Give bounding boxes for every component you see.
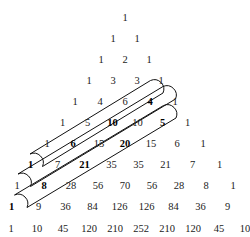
- cell: 35: [100, 159, 123, 171]
- cell: 9: [27, 201, 50, 213]
- cell: 1: [192, 138, 214, 150]
- table-row: 1 6 15 20 15 6 1: [0, 133, 250, 151]
- cell: 120: [78, 223, 100, 235]
- cell: 45: [208, 223, 230, 235]
- cell: 9: [216, 201, 239, 213]
- cell-highlighted: 8: [33, 180, 56, 192]
- cell: 56: [141, 180, 164, 192]
- cell: 7: [181, 159, 204, 171]
- table-row: 1 7 21 35 35 21 7 1: [0, 154, 250, 172]
- table-row: 1 2 1: [0, 49, 250, 67]
- cell-highlighted: 1: [19, 159, 42, 171]
- cell: 126: [135, 201, 158, 213]
- cell: 4: [90, 96, 111, 108]
- cell: 1: [103, 33, 123, 45]
- cell: 1: [115, 12, 135, 24]
- cell: 10: [127, 117, 148, 129]
- cell: 45: [52, 223, 74, 235]
- cell: 56: [87, 180, 110, 192]
- table-row: 1 4 6 4 1: [0, 91, 250, 109]
- table-row: 1 8 28 56 70 56 28 8 1: [0, 175, 250, 193]
- cell: 6: [115, 96, 136, 108]
- cell: 7: [46, 159, 69, 171]
- cell: 1: [52, 117, 73, 129]
- cell: 28: [60, 180, 83, 192]
- cell: 1: [91, 54, 111, 66]
- cell: 70: [114, 180, 137, 192]
- table-row: 1 9 36 84 126 126 84 36 9 1: [0, 196, 250, 214]
- cell: 210: [104, 223, 126, 235]
- cell: 15: [88, 138, 110, 150]
- cell-highlighted: 4: [140, 96, 161, 108]
- cell: 1: [6, 180, 29, 192]
- cell-highlighted: 1: [0, 201, 23, 213]
- cell: 1: [243, 201, 250, 213]
- cell: 3: [103, 75, 123, 87]
- cell: 2: [115, 54, 135, 66]
- cell: 21: [154, 159, 177, 171]
- cell-highlighted: 10: [102, 117, 123, 129]
- cell: 84: [162, 201, 185, 213]
- cell: 84: [81, 201, 104, 213]
- cell: 15: [140, 138, 162, 150]
- cell-highlighted: 20: [114, 138, 136, 150]
- cell: 36: [189, 201, 212, 213]
- cell: 10: [26, 223, 48, 235]
- cell: 1: [151, 75, 171, 87]
- table-row: 1: [0, 7, 250, 25]
- cell: 1: [0, 223, 22, 235]
- cell: 1: [222, 180, 245, 192]
- cell-highlighted: 6: [62, 138, 84, 150]
- cell: 1: [79, 75, 99, 87]
- cell: 126: [108, 201, 131, 213]
- table-row: 1 10 45 120 210 252 210 120 45 10 1: [0, 218, 250, 236]
- cell: 1: [36, 138, 58, 150]
- cell-highlighted: 5: [152, 117, 173, 129]
- cell: 1: [65, 96, 86, 108]
- cell: 36: [54, 201, 77, 213]
- cell: 28: [168, 180, 191, 192]
- cell: 5: [77, 117, 98, 129]
- cell: 210: [156, 223, 178, 235]
- cell: 35: [127, 159, 150, 171]
- cell: 1: [139, 54, 159, 66]
- cell: 1: [177, 117, 198, 129]
- cell: 252: [130, 223, 152, 235]
- cell-highlighted: 21: [73, 159, 96, 171]
- cell: 120: [182, 223, 204, 235]
- cell: 3: [127, 75, 147, 87]
- cell: 10: [234, 223, 250, 235]
- pascals-triangle-figure: 1 1 1 1 2 1 1 3 3 1 1 4 6 4 1 1 5 10: [0, 0, 250, 237]
- table-row: 1 5 10 10 5 1: [0, 112, 250, 130]
- triangle-rows: 1 1 1 1 2 1 1 3 3 1 1 4 6 4 1 1 5 10: [0, 0, 250, 237]
- cell: 1: [208, 159, 231, 171]
- table-row: 1 3 3 1: [0, 70, 250, 88]
- cell: 1: [127, 33, 147, 45]
- cell: 1: [165, 96, 186, 108]
- cell: 6: [166, 138, 188, 150]
- table-row: 1 1: [0, 28, 250, 46]
- cell: 8: [195, 180, 218, 192]
